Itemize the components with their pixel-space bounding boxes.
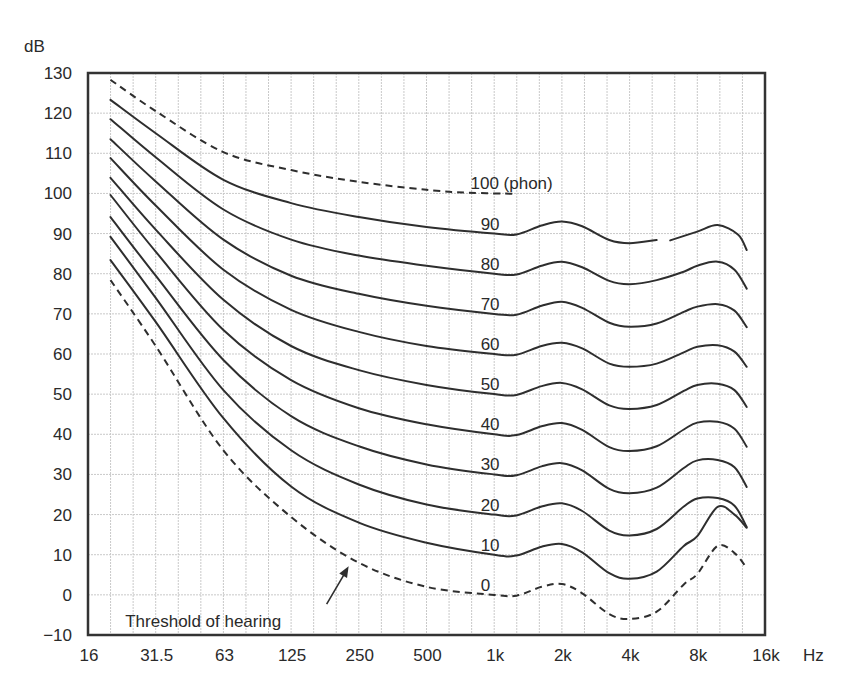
curve-label: 20 [481,496,500,515]
y-axis-label: dB [24,37,45,56]
curve-label: 70 [481,295,500,314]
x-axis-label: Hz [803,646,824,665]
curve-80 [111,119,747,288]
y-tick-label: 20 [53,506,72,525]
y-tick-label: −10 [43,626,72,645]
x-axis-ticks: 1631.5631252505001k2k4k8k16k [80,646,781,665]
y-tick-label: 100 [44,184,72,203]
y-tick-label: 70 [53,305,72,324]
y-axis-ticks: 1301201101009080706050403020100−10 [43,64,72,645]
curve-90 [111,100,657,243]
y-tick-label: 10 [53,546,72,565]
curve-30 [111,217,747,493]
curve-labels: 100 (phon)9080706050403020100 [471,174,553,594]
x-tick-label: 16 [80,646,99,665]
equal-loudness-chart: 100 (phon)9080706050403020100 1301201101… [0,0,868,699]
curve-label: 60 [481,335,500,354]
y-tick-label: 50 [53,385,72,404]
curve-label: 40 [481,415,500,434]
curve-0 [111,280,747,619]
curve-label: 10 [481,536,500,555]
curve-100-phon [111,80,515,194]
x-tick-label: 8k [689,646,707,665]
x-tick-label: 500 [413,646,441,665]
curve-50 [111,178,747,409]
x-tick-label: 63 [215,646,234,665]
curve-label: 100 (phon) [471,174,553,193]
y-tick-label: 40 [53,425,72,444]
y-tick-label: 110 [45,144,72,163]
curve-label: 50 [481,375,500,394]
x-tick-label: 125 [278,646,306,665]
curve-90-segment-2 [670,225,747,250]
curve-label: 30 [481,455,500,474]
y-tick-label: 60 [53,345,72,364]
x-tick-label: 4k [622,646,640,665]
x-tick-label: 2k [554,646,572,665]
y-tick-label: 90 [53,225,72,244]
x-tick-label: 31.5 [140,646,173,665]
x-tick-label: 16k [752,646,780,665]
curve-label: 80 [481,255,500,274]
x-tick-label: 250 [346,646,374,665]
y-tick-label: 0 [63,586,72,605]
annotation-text: Threshold of hearing [125,612,281,631]
y-tick-label: 130 [44,64,72,83]
curve-label: 90 [481,215,500,234]
threshold-annotation: Threshold of hearing [125,566,348,631]
y-tick-label: 80 [53,265,72,284]
y-tick-label: 120 [44,104,72,123]
y-tick-label: 30 [53,465,72,484]
curves [111,80,747,619]
x-tick-label: 1k [486,646,504,665]
curve-label: 0 [481,576,490,595]
curve-60 [111,158,747,367]
